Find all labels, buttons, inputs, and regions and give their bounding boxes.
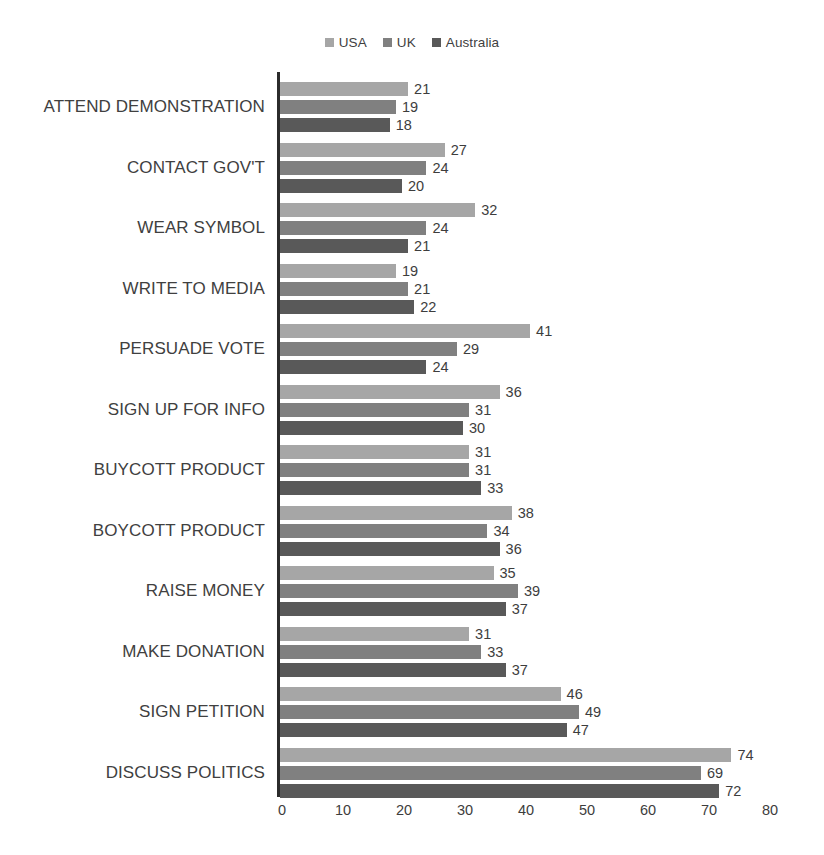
bar-row: 49 [280, 705, 824, 719]
bar-group: SIGN PETITION464947 [0, 687, 824, 737]
bar-australia [280, 481, 481, 495]
bar-row: 21 [280, 239, 824, 253]
bar-australia [280, 239, 408, 253]
bar-value-label: 37 [512, 602, 528, 617]
bar-value-label: 31 [475, 463, 491, 478]
bar-uk [280, 766, 701, 780]
bar-value-label: 30 [469, 420, 485, 435]
bar-usa [280, 203, 475, 217]
bar-usa [280, 445, 469, 459]
bar-value-label: 37 [512, 662, 528, 677]
bar-value-label: 72 [725, 783, 741, 798]
x-axis-tick-label: 20 [396, 803, 412, 818]
bar-row: 39 [280, 584, 824, 598]
bar-uk [280, 524, 487, 538]
bar-value-label: 21 [414, 82, 430, 97]
bar-row: 69 [280, 766, 824, 780]
bar-group: WRITE TO MEDIA192122 [0, 264, 824, 314]
bar-usa [280, 506, 512, 520]
bar-uk [280, 100, 396, 114]
bar-row: 41 [280, 324, 824, 338]
bar-usa [280, 324, 530, 338]
bar-uk [280, 645, 481, 659]
bar-usa [280, 627, 469, 641]
bar-uk [280, 463, 469, 477]
bar-chart: USAUKAustralia ATTEND DEMONSTRATION21191… [0, 0, 824, 855]
bar-australia [280, 602, 506, 616]
bar-row: 24 [280, 221, 824, 235]
bar-row: 38 [280, 506, 824, 520]
bar-group: CONTACT GOV'T272420 [0, 143, 824, 193]
bar-value-label: 24 [432, 221, 448, 236]
x-axis-tick-label: 10 [335, 803, 351, 818]
bar-value-label: 27 [451, 142, 467, 157]
bar-usa [280, 748, 731, 762]
bar-uk [280, 705, 579, 719]
bar-row: 27 [280, 143, 824, 157]
bar-group: SIGN UP FOR INFO363130 [0, 385, 824, 435]
bar-group: PERSUADE VOTE412924 [0, 324, 824, 374]
bar-usa [280, 385, 500, 399]
bar-usa [280, 566, 494, 580]
bar-usa [280, 264, 396, 278]
bar-australia [280, 118, 390, 132]
category-label: WRITE TO MEDIA [0, 279, 265, 299]
bar-value-label: 33 [487, 644, 503, 659]
bar-australia [280, 360, 426, 374]
bar-uk [280, 161, 426, 175]
bar-row: 21 [280, 282, 824, 296]
bar-australia [280, 421, 463, 435]
bar-row: 30 [280, 421, 824, 435]
bar-value-label: 49 [585, 705, 601, 720]
bar-row: 72 [280, 784, 824, 798]
bar-value-label: 20 [408, 178, 424, 193]
category-label: PERSUADE VOTE [0, 339, 265, 359]
bar-value-label: 19 [402, 263, 418, 278]
bar-group: MAKE DONATION313337 [0, 627, 824, 677]
bar-row: 22 [280, 300, 824, 314]
bar-value-label: 31 [475, 402, 491, 417]
bar-row: 24 [280, 360, 824, 374]
bar-value-label: 21 [414, 281, 430, 296]
bar-value-label: 33 [487, 481, 503, 496]
category-label: DISCUSS POLITICS [0, 763, 265, 783]
bar-row: 33 [280, 481, 824, 495]
bar-value-label: 34 [493, 523, 509, 538]
bar-value-label: 41 [536, 324, 552, 339]
x-axis-tick-label: 80 [762, 803, 778, 818]
x-axis-ticks: 01020304050607080 [0, 803, 824, 825]
bar-row: 31 [280, 463, 824, 477]
bar-row: 18 [280, 118, 824, 132]
bar-row: 32 [280, 203, 824, 217]
bar-row: 31 [280, 627, 824, 641]
bar-row: 37 [280, 663, 824, 677]
bar-value-label: 24 [432, 160, 448, 175]
bar-row: 47 [280, 723, 824, 737]
bar-row: 36 [280, 385, 824, 399]
category-label: WEAR SYMBOL [0, 218, 265, 238]
bar-australia [280, 542, 500, 556]
bar-value-label: 31 [475, 626, 491, 641]
x-axis-tick-label: 40 [518, 803, 534, 818]
bar-row: 20 [280, 179, 824, 193]
bar-value-label: 21 [414, 239, 430, 254]
category-label: ATTEND DEMONSTRATION [0, 97, 265, 117]
bar-value-label: 18 [396, 118, 412, 133]
x-axis-tick-label: 30 [457, 803, 473, 818]
bar-row: 74 [280, 748, 824, 762]
bar-row: 21 [280, 82, 824, 96]
bar-value-label: 36 [506, 541, 522, 556]
bar-uk [280, 584, 518, 598]
bar-row: 34 [280, 524, 824, 538]
bar-uk [280, 221, 426, 235]
plot-area: ATTEND DEMONSTRATION211918CONTACT GOV'T2… [0, 0, 824, 855]
bar-group: DISCUSS POLITICS746972 [0, 748, 824, 798]
bar-value-label: 74 [737, 747, 753, 762]
category-label: SIGN PETITION [0, 702, 265, 722]
bar-group: BOYCOTT PRODUCT383436 [0, 506, 824, 556]
bar-group: WEAR SYMBOL322421 [0, 203, 824, 253]
bar-usa [280, 143, 445, 157]
bar-value-label: 46 [567, 687, 583, 702]
x-axis-tick-label: 70 [701, 803, 717, 818]
x-axis-tick-label: 60 [640, 803, 656, 818]
